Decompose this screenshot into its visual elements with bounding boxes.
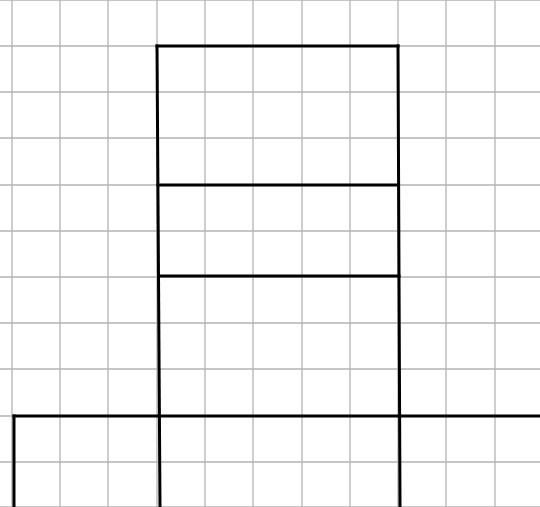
background	[0, 0, 540, 507]
grid-diagram	[0, 0, 540, 507]
